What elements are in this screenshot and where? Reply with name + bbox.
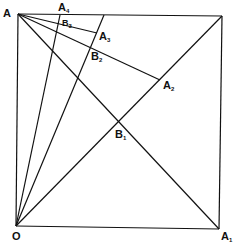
- segment-TR-A1: [219, 16, 222, 229]
- diagram-canvas: A O A1 A2 A3 A4 B1 B2 B3: [0, 0, 236, 243]
- segment-A-A2: [18, 14, 160, 80]
- segment-O-A1: [16, 226, 219, 229]
- label-A4: A4: [58, 1, 70, 14]
- label-B1: B1: [115, 128, 127, 141]
- label-O: O: [12, 230, 21, 242]
- label-A3: A3: [99, 30, 111, 43]
- segment-A-TR: [18, 14, 222, 16]
- segment-A-A3: [18, 14, 97, 33]
- segment-O-T3: [16, 15, 104, 226]
- label-A2: A2: [163, 79, 175, 92]
- label-A1: A1: [221, 230, 233, 243]
- segment-A-O: [16, 14, 18, 226]
- label-B2: B2: [91, 50, 103, 63]
- segment-O-A4: [16, 15, 60, 226]
- label-B3: B3: [62, 18, 73, 29]
- segment-O-TR: [16, 16, 222, 226]
- label-A: A: [3, 7, 11, 19]
